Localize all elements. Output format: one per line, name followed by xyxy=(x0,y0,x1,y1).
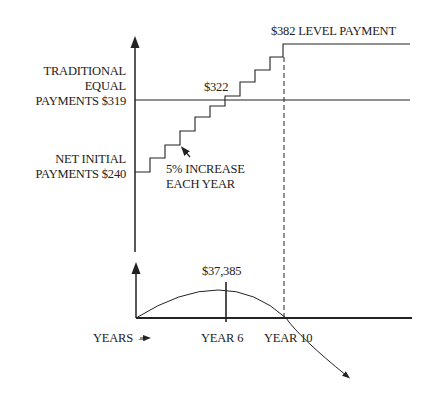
traditional-label-line-1: TRADITIONAL xyxy=(20,64,126,79)
initial-label-line-2: PAYMENTS $240 xyxy=(20,167,126,182)
level-payment-label: $382 LEVEL PAYMENT xyxy=(271,24,396,39)
increase-pointer-arrow xyxy=(184,150,190,157)
initial-label: NET INITIAL PAYMENTS $240 xyxy=(20,152,126,182)
increase-label: 5% INCREASE EACH YEAR xyxy=(166,162,245,192)
traditional-label: TRADITIONAL EQUAL PAYMENTS $319 xyxy=(20,64,126,109)
graduated-payment-steps xyxy=(135,44,410,172)
year-10-label: YEAR 10 xyxy=(264,331,312,346)
increase-label-line-2: EACH YEAR xyxy=(166,177,245,192)
increase-label-line-1: 5% INCREASE xyxy=(166,162,245,177)
peak-label: $37,385 xyxy=(202,264,241,279)
traditional-label-line-2: EQUAL xyxy=(20,79,126,94)
year-6-label: YEAR 6 xyxy=(201,331,243,346)
years-axis-label: YEARS → xyxy=(93,331,148,346)
traditional-label-line-3: PAYMENTS $319 xyxy=(20,94,126,109)
crossover-label: $322 xyxy=(204,80,228,95)
initial-label-line-1: NET INITIAL xyxy=(20,152,126,167)
